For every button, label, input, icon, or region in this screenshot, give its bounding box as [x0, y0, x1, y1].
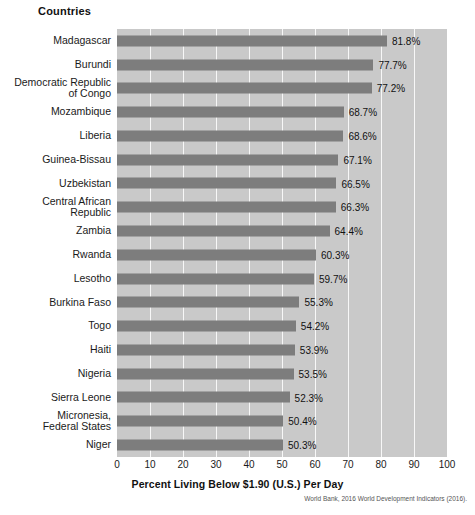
category-label: Burkina Faso — [0, 291, 113, 315]
x-tick-label: 50 — [276, 459, 287, 470]
value-label: 53.5% — [299, 368, 327, 379]
x-tick-label: 10 — [144, 459, 155, 470]
x-tick-label: 20 — [177, 459, 188, 470]
category-label-column: MadagascarBurundiDemocratic Republicof C… — [0, 29, 113, 457]
category-label: Central AfricanRepublic — [0, 195, 113, 219]
value-label: 77.2% — [377, 83, 405, 94]
value-label: 77.7% — [378, 59, 406, 70]
category-label: Sierra Leone — [0, 386, 113, 410]
value-label: 68.6% — [348, 131, 376, 142]
category-label: Liberia — [0, 124, 113, 148]
category-label: Niger — [0, 433, 113, 457]
category-label: Togo — [0, 314, 113, 338]
value-label: 66.5% — [341, 178, 369, 189]
category-label: Burundi — [0, 53, 113, 77]
category-label: Democratic Republicof Congo — [0, 77, 113, 101]
category-label: Mozambique — [0, 100, 113, 124]
x-tick-label: 0 — [114, 459, 120, 470]
x-axis-ticks: 0102030405060708090100 — [0, 459, 475, 475]
value-label: 53.9% — [300, 345, 328, 356]
category-label: Uzbekistan — [0, 172, 113, 196]
source-citation: World Bank, 2016 World Development Indic… — [304, 495, 467, 502]
category-label: Guinea-Bissau — [0, 148, 113, 172]
value-label: 54.2% — [301, 321, 329, 332]
value-label: 67.1% — [343, 154, 371, 165]
x-tick-label: 80 — [375, 459, 386, 470]
value-label: 50.4% — [288, 416, 316, 427]
category-label: Micronesia,Federal States — [0, 409, 113, 433]
x-tick-label: 90 — [408, 459, 419, 470]
category-label: Nigeria — [0, 362, 113, 386]
x-tick-label: 70 — [342, 459, 353, 470]
value-label: 60.3% — [321, 249, 349, 260]
value-label: 68.7% — [349, 107, 377, 118]
category-label: Madagascar — [0, 29, 113, 53]
x-tick-label: 30 — [210, 459, 221, 470]
category-label: Zambia — [0, 219, 113, 243]
category-label: Rwanda — [0, 243, 113, 267]
bar-chart: Countries MadagascarBurundiDemocratic Re… — [0, 0, 475, 515]
value-label: 81.8% — [392, 35, 420, 46]
category-label: Lesotho — [0, 267, 113, 291]
value-label: 55.3% — [304, 297, 332, 308]
value-label-layer: 81.8%77.7%77.2%68.7%68.6%67.1%66.5%66.3%… — [117, 29, 475, 457]
category-label: Haiti — [0, 338, 113, 362]
x-axis-title: Percent Living Below $1.90 (U.S.) Per Da… — [0, 478, 475, 490]
value-label: 50.3% — [288, 440, 316, 451]
countries-axis-header: Countries — [38, 5, 91, 17]
x-tick-label: 60 — [309, 459, 320, 470]
x-tick-label: 100 — [439, 459, 456, 470]
value-label: 52.3% — [295, 392, 323, 403]
x-tick-label: 40 — [243, 459, 254, 470]
value-label: 64.4% — [335, 226, 363, 237]
value-label: 66.3% — [341, 202, 369, 213]
value-label: 59.7% — [319, 273, 347, 284]
